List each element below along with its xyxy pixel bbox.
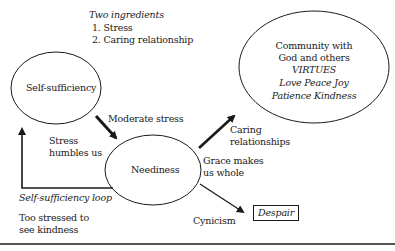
- virtues-title: VIRTUES: [264, 64, 364, 76]
- cynicism-label: Cynicism: [193, 215, 235, 227]
- despair-node: Despair: [253, 205, 299, 221]
- ingredients-title: Two ingredients: [89, 9, 164, 21]
- neediness-label: Neediness: [131, 164, 179, 176]
- loop-desc-line2: see kindness: [19, 224, 78, 236]
- diagram-canvas: Two ingredients 1. Stress 2. Caring rela…: [0, 0, 395, 251]
- caring-relationships-label-line1: Caring: [230, 124, 262, 136]
- self-sufficiency-label: Self-sufficiency: [26, 82, 96, 94]
- virtues-line2: Patience Kindness: [250, 90, 378, 102]
- cynicism-arrow: [200, 184, 243, 212]
- grace-label-line2: us whole: [203, 167, 244, 179]
- stress-humbles-label-line1: Stress: [49, 135, 78, 147]
- virtues-line1: Love Peace Joy: [256, 77, 372, 89]
- caring-relationships-arrow: [199, 116, 234, 148]
- community-label-line2: God and others: [264, 52, 364, 64]
- ingredient-item: 2. Caring relationship: [92, 34, 193, 46]
- loop-title: Self-sufficiency loop: [19, 192, 112, 204]
- loop-desc-line1: Too stressed to: [19, 212, 89, 224]
- caring-relationships-label-line2: relationships: [230, 136, 290, 148]
- ingredient-item: 1. Stress: [92, 22, 133, 34]
- grace-label-line1: Grace makes: [203, 155, 263, 167]
- community-label-line1: Community with: [264, 40, 364, 52]
- stress-humbles-label-line2: humbles us: [49, 147, 102, 159]
- moderate-stress-label: Moderate stress: [108, 113, 183, 125]
